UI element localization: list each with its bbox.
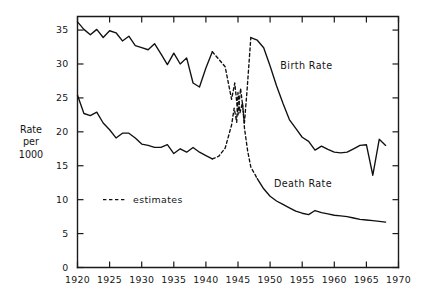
series-segment-solid <box>78 95 213 159</box>
x-tick-label: 1950 <box>258 274 283 285</box>
y-tick-label: 20 <box>56 126 69 137</box>
y-axis-title-line: 1000 <box>19 149 43 160</box>
legend-label: estimates <box>133 194 183 205</box>
x-axis-tick-labels: 1920192519301935194019451950195519601965… <box>65 274 411 285</box>
y-tick-label: 30 <box>56 58 69 69</box>
chart-container: 05101520253035 1920192519301935194019451… <box>0 0 430 302</box>
series-birth-rate <box>78 22 386 175</box>
x-tick-label: 1935 <box>161 274 186 285</box>
series-segment-dashed <box>212 92 257 178</box>
series-segment-solid <box>251 38 386 176</box>
y-axis-title-line: per <box>23 136 39 147</box>
y-tick-label: 10 <box>56 194 69 205</box>
y-tick-label: 35 <box>56 24 69 35</box>
y-axis-title-line: Rate <box>20 124 42 135</box>
x-tick-label: 1920 <box>65 274 90 285</box>
axis-ticks <box>78 17 399 268</box>
x-tick-label: 1945 <box>225 274 250 285</box>
series-annotations: Birth RateDeath Rate <box>274 60 333 189</box>
y-tick-label: 25 <box>56 92 69 103</box>
y-axis-title: Rateper1000 <box>19 124 43 160</box>
y-tick-label: 0 <box>62 262 68 273</box>
series-segment-dashed <box>212 38 251 123</box>
line-chart: 05101520253035 1920192519301935194019451… <box>0 0 430 302</box>
y-tick-label: 5 <box>62 228 68 239</box>
x-tick-label: 1940 <box>193 274 218 285</box>
y-axis-tick-labels: 05101520253035 <box>56 24 69 272</box>
legend: estimates <box>103 194 183 205</box>
axes <box>78 17 399 268</box>
series-label-birth-rate: Birth Rate <box>280 60 332 71</box>
series-death-rate <box>78 92 386 222</box>
x-tick-label: 1970 <box>386 274 411 285</box>
series-label-death-rate: Death Rate <box>274 178 332 189</box>
y-tick-label: 15 <box>56 160 69 171</box>
x-tick-label: 1930 <box>129 274 154 285</box>
x-tick-label: 1960 <box>322 274 347 285</box>
x-tick-label: 1965 <box>354 274 379 285</box>
data-series <box>78 22 386 222</box>
x-tick-label: 1925 <box>97 274 122 285</box>
x-tick-label: 1955 <box>290 274 315 285</box>
series-segment-solid <box>78 22 213 87</box>
